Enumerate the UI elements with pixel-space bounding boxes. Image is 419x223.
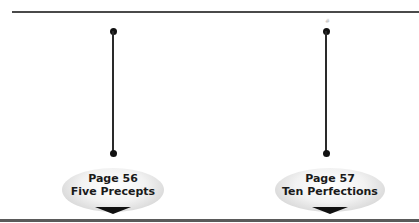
page-title-label: Five Precepts: [62, 185, 164, 198]
page-link-five-precepts[interactable]: Page 56 Five Precepts: [62, 168, 164, 212]
page-link-ten-perfections[interactable]: Page 57 Ten Perfections: [275, 168, 385, 212]
page-number-label: Page 56: [62, 168, 164, 185]
timeline-connector-1: [112, 31, 114, 153]
small-marker-icon: #: [325, 17, 330, 24]
top-rule: [12, 11, 419, 13]
down-arrow-icon: [95, 207, 131, 214]
bottom-rule: [0, 219, 419, 222]
page-number-label: Page 57: [275, 168, 385, 185]
page-title-label: Ten Perfections: [275, 185, 385, 198]
timeline-dot-bottom-1: [110, 150, 117, 157]
down-arrow-icon: [312, 207, 348, 214]
timeline-connector-2: [325, 31, 327, 153]
timeline-dot-bottom-2: [323, 150, 330, 157]
